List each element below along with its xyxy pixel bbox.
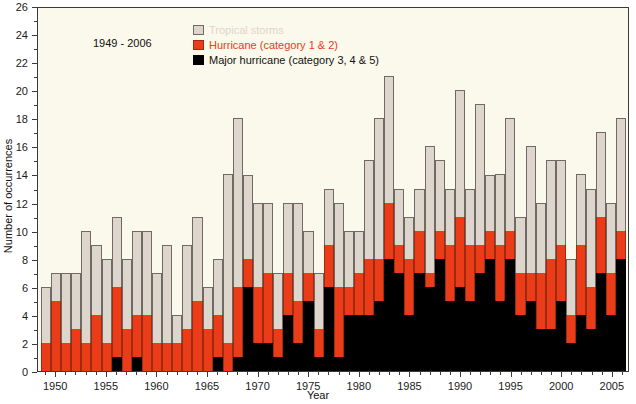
bar-1991 [465, 189, 475, 371]
bar-segment-major [445, 301, 455, 371]
legend-item-trop: Tropical storms [193, 22, 379, 37]
bar-1981 [364, 160, 374, 371]
bar-1993 [485, 175, 495, 372]
bar-1955 [102, 259, 112, 371]
y-tick-label: 24 [16, 29, 28, 41]
bar-segment-trop [394, 189, 404, 245]
bar-segment-major [293, 343, 303, 371]
bar-segment-trop [515, 217, 525, 273]
bar-segment-trop [324, 189, 334, 245]
x-tick-mark [308, 372, 309, 377]
bar-1957 [122, 259, 132, 371]
x-minor-tick-mark [45, 372, 46, 375]
bar-segment-major [546, 329, 556, 371]
bar-1967 [223, 174, 233, 371]
bar-segment-trop [203, 287, 213, 329]
bar-segment-trop [41, 287, 51, 343]
y-axis-title: Number of occurrences [2, 116, 14, 276]
bar-segment-trop [495, 174, 505, 244]
x-minor-tick-mark [480, 372, 481, 375]
x-minor-tick-mark [369, 372, 370, 375]
x-tick-mark [207, 372, 208, 377]
y-tick-label: 8 [22, 254, 28, 266]
bar-segment-trop [81, 231, 91, 343]
bar-segment-trop [61, 273, 71, 343]
bar-segment-trop [142, 231, 152, 315]
legend-swatch-trop-icon [193, 25, 204, 35]
legend-label: Tropical storms [209, 23, 284, 37]
x-axis-title: Year [0, 389, 636, 401]
x-minor-tick-mark [622, 372, 623, 375]
x-minor-tick-mark [75, 372, 76, 375]
bar-1977 [324, 189, 334, 371]
bar-segment-major [243, 287, 253, 371]
bar-segment-hurr [505, 231, 515, 259]
x-minor-tick-mark [551, 372, 552, 375]
bar-segment-major [505, 259, 515, 371]
bar-1987 [425, 146, 435, 371]
bar-1951 [61, 273, 71, 371]
bar-segment-hurr [273, 329, 283, 357]
bar-segment-trop [616, 118, 626, 230]
bar-segment-major [213, 357, 223, 371]
bar-segment-hurr [556, 245, 566, 301]
bar-1966 [213, 259, 223, 371]
bar-1970 [253, 203, 263, 371]
bar-segment-trop [132, 231, 142, 315]
x-minor-tick-mark [217, 372, 218, 375]
bar-segment-trop [253, 203, 263, 287]
bar-segment-major [414, 273, 424, 371]
bar-segment-major [556, 301, 566, 371]
bar-segment-hurr [465, 245, 475, 301]
x-minor-tick-mark [450, 372, 451, 375]
bar-segment-major [132, 357, 142, 371]
bar-segment-trop [293, 203, 303, 301]
legend-period-label: 1949 - 2006 [93, 36, 152, 50]
bar-segment-hurr [475, 245, 485, 273]
bar-segment-trop [233, 118, 243, 286]
bar-segment-major [364, 315, 374, 371]
bar-segment-hurr [314, 329, 324, 357]
y-tick-label: 4 [22, 310, 28, 322]
bar-segment-trop [465, 189, 475, 245]
x-minor-tick-mark [470, 372, 471, 375]
bar-segment-hurr [112, 287, 122, 357]
bar-1976 [314, 273, 324, 371]
x-tick-mark [106, 372, 107, 377]
bar-segment-hurr [566, 315, 576, 343]
bar-segment-hurr [425, 273, 435, 287]
bar-segment-trop [303, 231, 313, 273]
bar-segment-hurr [102, 343, 112, 371]
y-tick-label: 26 [16, 1, 28, 13]
bar-segment-major [515, 315, 525, 371]
legend-item-major: Major hurricane (category 3, 4 & 5) [193, 52, 379, 67]
bar-segment-hurr [354, 273, 364, 315]
bar-segment-major [112, 357, 122, 371]
x-minor-tick-mark [592, 372, 593, 375]
bar-segment-trop [263, 203, 273, 273]
bar-segment-hurr [172, 343, 182, 371]
bar-segment-hurr [495, 245, 505, 301]
x-minor-tick-mark [399, 372, 400, 375]
x-minor-tick-mark [379, 372, 380, 375]
bar-1992 [475, 104, 485, 371]
bar-2002 [576, 174, 586, 371]
bar-1961 [162, 245, 172, 371]
bar-segment-hurr [324, 245, 334, 287]
bar-segment-trop [425, 146, 435, 272]
bar-segment-hurr [243, 259, 253, 287]
bar-segment-major [526, 301, 536, 371]
bar-segment-hurr [152, 343, 162, 371]
bar-segment-major [606, 315, 616, 371]
bar-segment-hurr [162, 343, 172, 371]
bar-segment-trop [364, 160, 374, 258]
bar-segment-trop [606, 203, 616, 273]
bar-segment-hurr [445, 245, 455, 301]
y-tick-label: 10 [16, 226, 28, 238]
bar-segment-major [576, 315, 586, 371]
bar-segment-hurr [142, 315, 152, 371]
bar-segment-trop [152, 273, 162, 343]
bar-segment-trop [455, 90, 465, 216]
bar-segment-hurr [122, 329, 132, 371]
bar-segment-major [273, 357, 283, 371]
